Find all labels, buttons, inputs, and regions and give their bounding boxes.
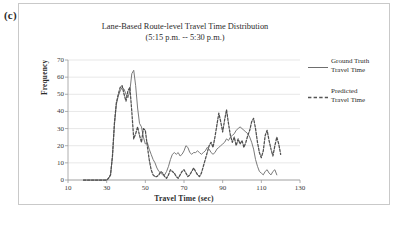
legend-entry[interactable]: PredictedTravel Time: [308, 87, 388, 106]
gridlines: [68, 60, 300, 180]
y-tick-label: 20: [36, 142, 64, 150]
x-tick-label: 90: [208, 184, 238, 192]
legend-label: Ground TruthTravel Time: [331, 57, 369, 76]
x-tick-label: 50: [130, 184, 160, 192]
y-tick-label: 0: [36, 176, 64, 184]
series-paths: [83, 70, 280, 180]
legend-label-line1: Ground Truth: [331, 57, 369, 66]
chart-legend: Ground TruthTravel TimePredictedTravel T…: [308, 57, 388, 117]
series-line-predicted: [83, 86, 280, 180]
series-line-ground-truth: [83, 70, 276, 180]
x-tick-label: 130: [285, 184, 315, 192]
x-tick-label: 10: [53, 184, 83, 192]
y-tick-label: 30: [36, 125, 64, 133]
figure-root: (c) Lane-Based Route-level Travel Time D…: [0, 0, 402, 225]
y-tick-label: 50: [36, 90, 64, 98]
solid-line-icon: [308, 58, 328, 67]
x-axis-title: Travel Time (sec): [68, 194, 300, 203]
figure-caption: [6, 212, 396, 219]
y-tick-label: 70: [36, 56, 64, 64]
y-tick-label: 60: [36, 73, 64, 81]
legend-label-line1: Predicted: [331, 87, 365, 96]
legend-label: PredictedTravel Time: [331, 87, 365, 106]
plot-area: [68, 60, 300, 180]
legend-label-line2: Travel Time: [331, 66, 369, 75]
legend-label-line2: Travel Time: [331, 96, 365, 105]
dashed-line-icon: [308, 88, 328, 97]
tick-marks: [65, 60, 300, 183]
x-tick-label: 70: [169, 184, 199, 192]
legend-entry[interactable]: Ground TruthTravel Time: [308, 57, 388, 76]
x-tick-label: 110: [246, 184, 276, 192]
axis-lines: [68, 60, 300, 180]
y-tick-label: 40: [36, 107, 64, 115]
chart-svg: [68, 60, 300, 180]
x-tick-label: 30: [92, 184, 122, 192]
y-tick-label: 10: [36, 159, 64, 167]
